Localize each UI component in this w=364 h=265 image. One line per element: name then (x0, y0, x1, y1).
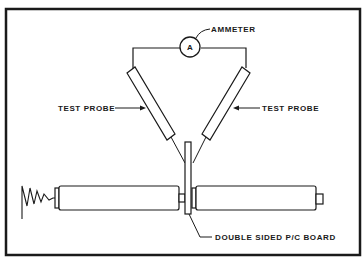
roller-right (192, 186, 323, 210)
roller-left (55, 186, 185, 210)
board-leader-line (189, 214, 212, 237)
probe-left-label: TEST PROBE (58, 104, 115, 113)
arrow-left-icon (233, 106, 239, 111)
test-probe-left: TEST PROBE (58, 67, 185, 163)
ammeter-label: AMMETER (211, 25, 256, 34)
pc-board (185, 142, 191, 214)
board-label: DOUBLE SIDED P/C BOARD (215, 233, 336, 242)
arrow-right-icon (140, 106, 146, 111)
probe-right-label: TEST PROBE (262, 104, 319, 113)
ammeter-symbol: A (187, 43, 193, 52)
ammeter: A AMMETER (180, 25, 256, 57)
test-probe-right: TEST PROBE (193, 67, 319, 163)
test-setup-diagram: A AMMETER TEST PROBE TEST PROBE DOUBLE S… (0, 0, 364, 265)
spring-icon (22, 186, 58, 219)
ammeter-leader-line (196, 29, 210, 38)
